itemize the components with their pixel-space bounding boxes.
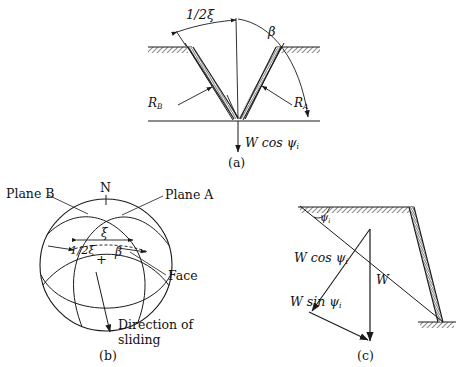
w-cos-subscript: i (346, 257, 348, 266)
slope-face (409, 207, 443, 322)
face-leader (130, 252, 166, 275)
label-beta-a: β (268, 24, 276, 39)
weight-normal-subscript: i (297, 142, 299, 151)
weight-vector-wsin (309, 312, 368, 340)
toe-ground-hatch (418, 322, 456, 328)
label-reaction-b: RB (148, 96, 163, 111)
label-plane-a: Plane A (165, 187, 213, 202)
label-beta-b: β (115, 245, 122, 259)
label-w-sin-psi: W sin ψi (290, 294, 342, 310)
label-reaction-a: RA (294, 96, 308, 111)
panel-a-wedge-section (148, 18, 320, 152)
w-sin-symbol: W sin ψ (290, 294, 339, 309)
weight-normal-symbol: W cos ψ (245, 135, 297, 150)
psi-subscript: i (328, 217, 330, 225)
label-weight-w: W (376, 272, 389, 287)
reaction-a-subscript: A (303, 102, 308, 111)
label-plane-b: Plane B (6, 186, 54, 201)
great-circle-lower (41, 275, 170, 308)
wedge-plane-b (185, 43, 239, 120)
label-xi-b: ξ (101, 226, 108, 240)
direction-of-sliding-arrow (96, 272, 110, 332)
label-psi-c: ψi (320, 211, 330, 225)
w-sin-subscript: i (339, 301, 341, 310)
caption-panel-a: (a) (228, 155, 245, 170)
psi-symbol: ψ (320, 211, 328, 223)
label-direction-of-sliding-line2: sliding (118, 332, 160, 347)
w-cos-symbol: W cos ψ (294, 250, 346, 265)
label-half-xi-a: 1/2ξ (186, 7, 214, 22)
label-half-xi-b: 1/2ξ (70, 243, 95, 257)
wedge-plane-a (238, 43, 284, 120)
crest-ground-hatch (298, 207, 414, 213)
label-direction-of-sliding-line1: Direction of (118, 317, 193, 332)
wedge-bisector-line (236, 18, 238, 118)
caption-panel-b: (b) (99, 348, 117, 363)
reaction-a-symbol: R (294, 96, 303, 110)
label-north: N (100, 180, 111, 195)
half-xi-left-leader (176, 31, 186, 46)
plane-a-leader (122, 196, 163, 215)
label-face: Face (168, 268, 198, 283)
caption-panel-c: (c) (357, 348, 374, 363)
reaction-a-leader (262, 86, 292, 105)
label-weight-normal-a: W cos ψi (245, 135, 299, 151)
stereonet-center-mark: + (96, 252, 107, 267)
reaction-b-leader (178, 87, 212, 105)
reaction-b-symbol: R (148, 96, 157, 110)
label-w-cos-psi: W cos ψi (294, 250, 348, 266)
reaction-b-subscript: B (157, 102, 162, 111)
figure-canvas (0, 0, 465, 367)
ground-hatch-left (148, 47, 192, 53)
